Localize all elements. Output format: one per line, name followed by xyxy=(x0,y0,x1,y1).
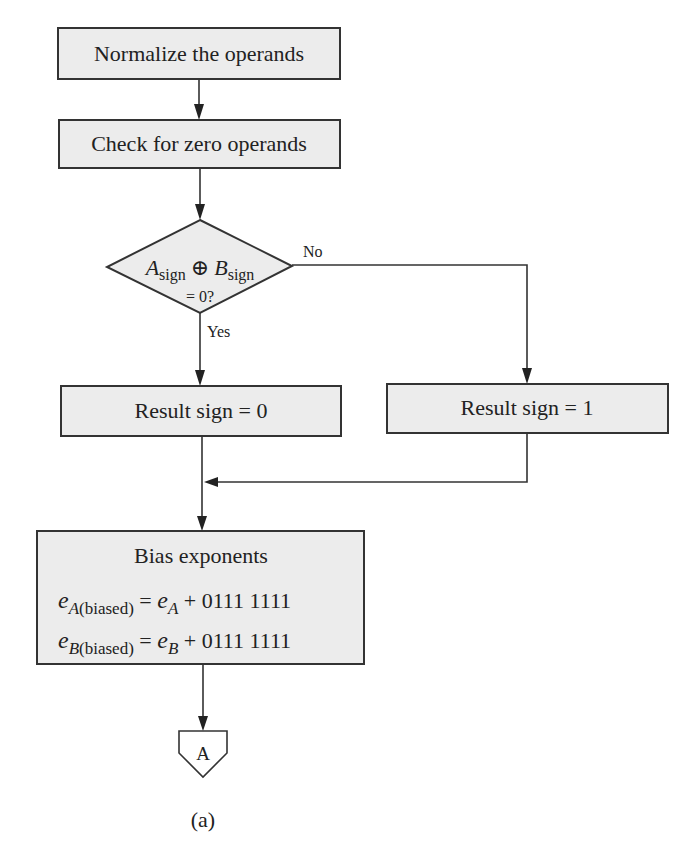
edge-no: No xyxy=(292,243,532,384)
arrowhead-icon xyxy=(204,477,218,487)
flowchart: Normalize the operands Check for zero op… xyxy=(0,0,698,859)
edge-merge xyxy=(197,433,527,531)
process-check-zero: Check for zero operands xyxy=(59,120,340,168)
process-bias-exponents: Bias exponents eA(biased) = eA + 0111 11… xyxy=(37,531,364,664)
decision-sign-xor: Asign⊕Bsign = 0? xyxy=(107,220,292,313)
arrowhead-icon xyxy=(197,516,207,531)
bias-title: Bias exponents xyxy=(134,543,268,568)
arrow-check-to-decision xyxy=(195,168,205,220)
connector-label: A xyxy=(196,743,210,764)
process-result-sign-0: Result sign = 0 xyxy=(61,386,341,436)
decision-equals-zero: = 0? xyxy=(186,288,214,305)
sign1-label: Result sign = 1 xyxy=(461,395,594,420)
figure-caption: (a) xyxy=(191,807,215,832)
normalize-label: Normalize the operands xyxy=(94,41,304,66)
offpage-connector-a: A xyxy=(179,731,227,777)
process-normalize-operands: Normalize the operands xyxy=(58,28,340,79)
arrowhead-icon xyxy=(198,716,208,731)
edge-label-no: No xyxy=(303,243,323,260)
arrow-normalize-to-check xyxy=(194,79,204,120)
arrowhead-icon xyxy=(195,204,205,220)
check-zero-label: Check for zero operands xyxy=(91,131,307,156)
sign0-label: Result sign = 0 xyxy=(135,398,268,423)
arrow-bias-to-connector xyxy=(198,664,208,731)
process-result-sign-1: Result sign = 1 xyxy=(387,384,668,433)
arrowhead-icon xyxy=(522,368,532,384)
edge-label-yes: Yes xyxy=(207,323,230,340)
arrowhead-icon xyxy=(194,104,204,120)
arrowhead-icon xyxy=(195,370,205,386)
edge-yes: Yes xyxy=(195,313,230,386)
